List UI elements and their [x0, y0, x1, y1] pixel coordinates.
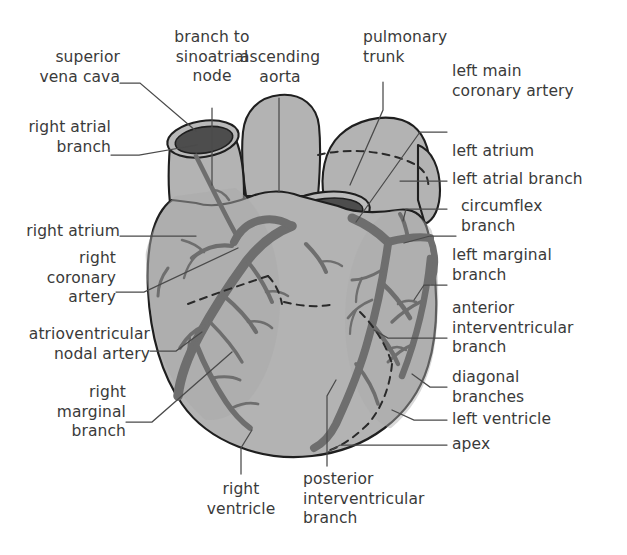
- leader-left-atrial-branch: [403, 209, 447, 221]
- label-superior-vena-cava: superior vena cava: [0, 48, 120, 87]
- label-atrioventricular-nodal-artery: atrioventricular nodal artery: [0, 325, 150, 364]
- label-left-atrial-branch: left atrial branch: [452, 170, 624, 190]
- leader-pulmonary-trunk: [350, 82, 383, 185]
- label-anterior-interventricular-branch: anterior interventricular branch: [452, 299, 624, 358]
- label-left-ventricle: left ventricle: [452, 410, 612, 430]
- leader-anterior-interventricular-branch: [374, 330, 447, 338]
- label-circumflex-branch: circumflex branch: [461, 197, 621, 236]
- label-right-marginal-branch: right marginal branch: [0, 383, 126, 442]
- leader-superior-vena-cava: [120, 83, 196, 131]
- label-right-ventricle: right ventricle: [181, 480, 301, 519]
- leader-left-marginal-branch: [414, 285, 447, 300]
- leader-atrioventricular-nodal-artery: [150, 332, 202, 351]
- leader-circumflex-branch: [404, 236, 456, 243]
- leader-right-atrial-branch: [111, 145, 197, 155]
- label-apex: apex: [452, 435, 572, 455]
- leader-right-ventricle: [241, 430, 252, 474]
- label-left-main-coronary-artery: left main coronary artery: [452, 62, 624, 101]
- leader-posterior-interventricular-branch: [327, 380, 336, 466]
- leader-left-ventricle: [392, 410, 447, 420]
- leader-right-coronary-artery: [116, 248, 238, 292]
- leader-diagonal-branches: [412, 374, 447, 387]
- leader-apex: [328, 445, 447, 452]
- label-ascending-aorta: ascending aorta: [224, 48, 336, 87]
- label-diagonal-branches: diagonal branches: [452, 368, 602, 407]
- label-right-atrium: right atrium: [0, 222, 120, 242]
- label-right-coronary-artery: right coronary artery: [0, 249, 116, 308]
- label-left-atrium: left atrium: [452, 142, 612, 162]
- label-right-atrial-branch: right atrial branch: [0, 118, 111, 157]
- label-left-marginal-branch: left marginal branch: [452, 246, 618, 285]
- label-posterior-interventricular-branch: posterior interventricular branch: [303, 470, 475, 529]
- heart-anatomy-diagram: superior vena cava branch to sinoatrial …: [0, 0, 627, 555]
